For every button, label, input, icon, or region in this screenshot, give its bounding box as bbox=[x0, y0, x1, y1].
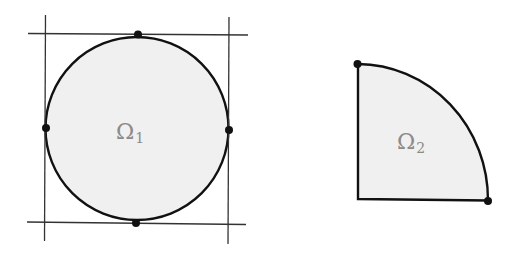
contact-point-right bbox=[225, 126, 233, 134]
contact-point-top bbox=[134, 31, 142, 39]
domain-2-quarter-disk bbox=[358, 64, 488, 201]
contact-point-left bbox=[42, 124, 50, 132]
domain-1: Ω1 bbox=[27, 15, 248, 244]
vertex-point-top bbox=[354, 60, 362, 68]
domain-2: Ω2 bbox=[354, 60, 493, 205]
domain-1-disk bbox=[46, 37, 229, 220]
diagram-canvas: Ω1 Ω2 bbox=[0, 0, 519, 253]
vertex-point-bottom-right bbox=[484, 197, 492, 205]
contact-point-bottom bbox=[132, 219, 140, 227]
